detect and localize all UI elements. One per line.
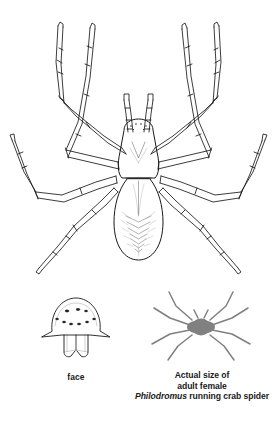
silhouette-body xyxy=(187,319,215,336)
illustration-plate: face xyxy=(0,0,277,421)
caption-line-1: Actual size of xyxy=(132,370,272,381)
leg-rear-left xyxy=(36,188,118,274)
caption-line-2: adult female xyxy=(132,381,272,392)
caption-line-3: Philodromus running crab spider xyxy=(132,391,272,402)
actual-size-block: Actual size of adult female Philodromus … xyxy=(132,288,272,402)
leg-front-right xyxy=(151,22,221,154)
cephalothorax xyxy=(118,119,158,178)
face-eyes xyxy=(56,308,96,325)
species-common-name: running crab spider xyxy=(187,391,269,401)
abdomen xyxy=(114,179,163,260)
leg-rear-right xyxy=(159,188,241,274)
actual-size-illustration xyxy=(132,288,272,364)
lower-figure-row: face xyxy=(0,288,277,421)
species-genus-name: Philodromus xyxy=(135,391,187,401)
leg-third-left xyxy=(10,134,117,202)
leg-front-left xyxy=(56,22,126,154)
actual-size-svg xyxy=(132,288,272,364)
main-spider-illustration xyxy=(0,2,277,280)
face-label: face xyxy=(24,372,128,383)
main-spider-svg xyxy=(0,2,277,280)
leg-third-right xyxy=(160,134,267,202)
actual-size-caption: Actual size of adult female Philodromus … xyxy=(132,370,272,402)
face-block: face xyxy=(24,288,128,383)
leg-second-left xyxy=(66,23,120,169)
face-svg xyxy=(24,288,128,362)
face-illustration xyxy=(24,288,128,362)
leg-second-right xyxy=(158,23,212,169)
